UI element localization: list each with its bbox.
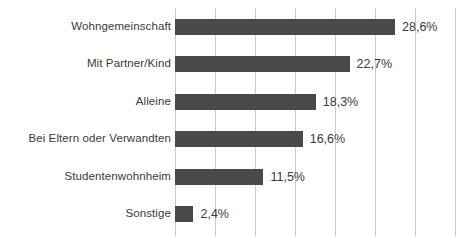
bar	[175, 131, 303, 147]
bar	[175, 19, 395, 35]
category-label: Mit Partner/Kind	[87, 59, 171, 71]
bar-row: Bei Eltern oder Verwandten16,6%	[175, 121, 455, 159]
value-label: 11,5%	[270, 171, 305, 184]
value-label: 2,4%	[200, 208, 229, 221]
category-label: Bei Eltern oder Verwandten	[28, 134, 171, 146]
value-label: 18,3%	[323, 96, 358, 109]
bar-row: Alleine18,3%	[175, 83, 455, 121]
category-label: Alleine	[136, 96, 171, 108]
bar-row: Wohngemeinschaft28,6%	[175, 8, 455, 46]
bar-chart: Wohngemeinschaft28,6%Mit Partner/Kind22,…	[0, 0, 461, 245]
bar	[175, 206, 193, 222]
bar	[175, 56, 350, 72]
value-label: 22,7%	[357, 58, 392, 71]
bar-row: Studentenwohnheim11,5%	[175, 158, 455, 196]
bar	[175, 94, 316, 110]
category-label: Wohngemeinschaft	[71, 21, 171, 33]
value-label: 16,6%	[310, 133, 345, 146]
value-label: 28,6%	[402, 21, 437, 34]
bar	[175, 169, 263, 185]
category-label: Sonstige	[125, 209, 171, 221]
plot-area: Wohngemeinschaft28,6%Mit Partner/Kind22,…	[175, 8, 455, 236]
gridline	[455, 8, 456, 236]
bar-row: Sonstige2,4%	[175, 196, 455, 234]
bar-row: Mit Partner/Kind22,7%	[175, 46, 455, 84]
category-label: Studentenwohnheim	[64, 171, 171, 183]
